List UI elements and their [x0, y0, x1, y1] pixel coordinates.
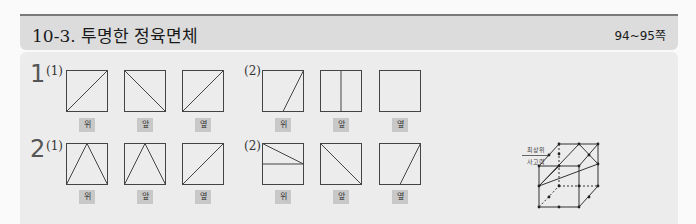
view-figure — [66, 70, 108, 112]
view-label: 앞 — [137, 118, 153, 132]
view-label: 앞 — [137, 190, 153, 204]
view-label: 앞 — [333, 118, 349, 132]
view-label: 앞 — [333, 190, 349, 204]
view-figure — [124, 70, 166, 112]
view-figure — [379, 70, 421, 112]
cube-figure — [535, 140, 601, 220]
view-label: 위 — [275, 190, 291, 204]
view-figure — [379, 143, 421, 185]
view-figure — [66, 143, 108, 185]
view-label: 옆 — [392, 190, 408, 204]
page-range: 94~95쪽 — [614, 26, 666, 43]
view-label: 위 — [275, 118, 291, 132]
view-figure — [320, 70, 362, 112]
view-figure — [124, 143, 166, 185]
part-label: (2) — [244, 139, 261, 153]
problem-number: 2 — [30, 137, 45, 161]
problem-number: 1 — [30, 62, 45, 86]
part-label: (1) — [46, 139, 63, 153]
part-label: (1) — [46, 64, 63, 78]
view-label: 위 — [79, 118, 95, 132]
view-figure — [262, 70, 304, 112]
view-figure — [182, 70, 224, 112]
view-label: 옆 — [195, 118, 211, 132]
view-figure — [182, 143, 224, 185]
section-title: 10-3. 투명한 정육면체 — [32, 22, 198, 47]
view-figure — [262, 143, 304, 185]
view-figure — [320, 143, 362, 185]
section-header: 10-3. 투명한 정육면체 94~95쪽 — [20, 14, 678, 50]
view-label: 옆 — [195, 190, 211, 204]
view-label: 옆 — [392, 118, 408, 132]
part-label: (2) — [244, 64, 261, 78]
view-label: 위 — [79, 190, 95, 204]
